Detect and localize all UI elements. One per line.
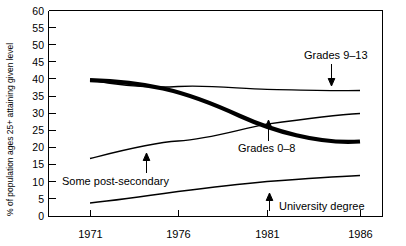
x-tick-label: 1981 bbox=[255, 228, 279, 240]
x-tick-label: 1976 bbox=[166, 228, 190, 240]
y-tick-label: 40 bbox=[32, 73, 44, 85]
x-tick-label: 1986 bbox=[348, 228, 372, 240]
x-tick-label: 1971 bbox=[78, 228, 102, 240]
annotation-label-grades-0-8: Grades 0–8 bbox=[238, 142, 295, 154]
y-tick-label: 35 bbox=[32, 90, 44, 102]
y-tick-label: 20 bbox=[32, 141, 44, 153]
y-axis-title: % of population ages 25+ attaining given… bbox=[5, 43, 15, 216]
annotation-label-some-post-secondary: Some post-secondary bbox=[62, 175, 169, 187]
y-tick-label: 55 bbox=[32, 22, 44, 34]
y-tick-label: 5 bbox=[38, 193, 44, 205]
y-tick-label: 0 bbox=[38, 210, 44, 222]
y-tick-label: 10 bbox=[32, 176, 44, 188]
annotation-label-grades-9-13: Grades 9–13 bbox=[304, 49, 368, 61]
y-tick-label: 15 bbox=[32, 158, 44, 170]
annotation-label-university-degree: University degree bbox=[279, 200, 365, 212]
y-tick-label: 25 bbox=[32, 124, 44, 136]
y-tick-label: 60 bbox=[32, 5, 44, 17]
chart-container: 60 55 50 45 40 35 30 25 20 15 10 5 0 % o… bbox=[0, 0, 406, 246]
line-chart: 60 55 50 45 40 35 30 25 20 15 10 5 0 % o… bbox=[0, 0, 406, 246]
y-tick-label: 45 bbox=[32, 56, 44, 68]
y-tick-label: 50 bbox=[32, 39, 44, 51]
y-tick-label: 30 bbox=[32, 107, 44, 119]
